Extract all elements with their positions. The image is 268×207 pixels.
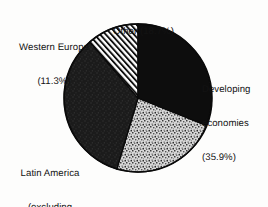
pie-label-western-europe-line1: Western Europe bbox=[8, 42, 100, 53]
pie-label-latin-america-line2: (excluding bbox=[2, 202, 98, 207]
pie-label-developing-economies-line3: (35.9%) bbox=[202, 152, 251, 163]
pie-label-developing-economies-line2: economies bbox=[202, 118, 251, 129]
pie-label-other-line1: Other (18.7%) bbox=[113, 26, 174, 37]
pie-label-other: Other (18.7%) bbox=[113, 3, 174, 60]
pie-label-developing-economies: Developing economies (35.9%) bbox=[202, 61, 251, 186]
pie-chart: Other (18.7%) Western Europe (11.3%) Dev… bbox=[0, 0, 268, 207]
pie-label-latin-america-line1: Latin America bbox=[2, 168, 98, 179]
pie-label-western-europe: Western Europe (11.3%) bbox=[8, 19, 100, 110]
pie-label-western-europe-line2: (11.3%) bbox=[8, 76, 100, 87]
pie-label-developing-economies-line1: Developing bbox=[202, 84, 251, 95]
pie-label-latin-america: Latin America (excluding MERCOSUL) (34.1… bbox=[2, 145, 98, 207]
